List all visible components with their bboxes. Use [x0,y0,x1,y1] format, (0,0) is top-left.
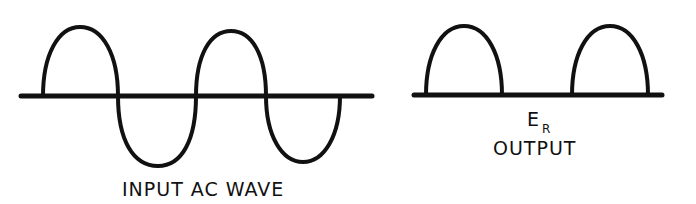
input-ac-wave-label: INPUT AC WAVE [122,178,284,200]
er-symbol-label: ER [527,108,551,130]
er-subscript: R [542,122,551,136]
output-label: OUTPUT [493,137,576,159]
output-lobe-1 [426,26,502,95]
er-symbol: E [527,108,540,130]
output-er-wave-graphic [414,26,662,95]
input-ac-wave-graphic [21,27,372,166]
waveform-diagram [0,0,696,204]
output-lobe-2 [572,26,648,95]
